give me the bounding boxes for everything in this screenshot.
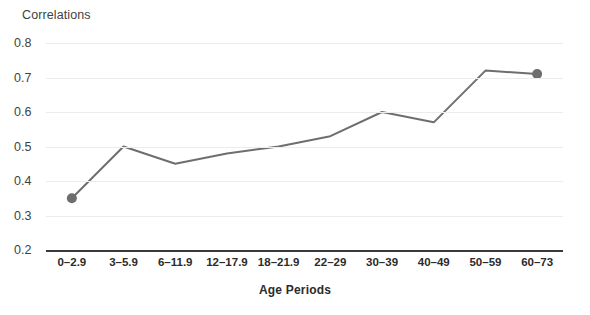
gridline bbox=[46, 216, 563, 217]
plot-area bbox=[46, 43, 563, 250]
y-tick-label: 0.3 bbox=[14, 209, 40, 223]
gridline bbox=[46, 78, 563, 79]
gridline bbox=[46, 147, 563, 148]
data-line bbox=[72, 71, 537, 199]
x-tick-label: 50–59 bbox=[469, 256, 501, 268]
x-tick-label: 0–2.9 bbox=[57, 256, 86, 268]
gridline bbox=[46, 112, 563, 113]
y-tick-label: 0.7 bbox=[14, 71, 40, 85]
x-axis-line bbox=[46, 250, 563, 252]
x-tick-label: 6–11.9 bbox=[158, 256, 193, 268]
y-tick-label: 0.8 bbox=[14, 36, 40, 50]
gridline bbox=[46, 181, 563, 182]
y-tick-label: 0.5 bbox=[14, 140, 40, 154]
x-tick-label: 3–5.9 bbox=[109, 256, 138, 268]
x-tick-label: 18–21.9 bbox=[258, 256, 300, 268]
x-tick-label: 22–29 bbox=[314, 256, 346, 268]
data-point-marker bbox=[67, 193, 77, 203]
correlations-line-chart: Correlations Age Periods 0.80.70.60.50.4… bbox=[0, 0, 590, 315]
x-tick-label: 12–17.9 bbox=[206, 256, 248, 268]
y-tick-label: 0.4 bbox=[14, 174, 40, 188]
y-tick-label: 0.6 bbox=[14, 105, 40, 119]
y-tick-label: 0.2 bbox=[14, 243, 40, 257]
x-tick-label: 40–49 bbox=[418, 256, 450, 268]
gridline bbox=[46, 43, 563, 44]
x-tick-label: 60–73 bbox=[521, 256, 553, 268]
x-axis-title: Age Periods bbox=[0, 283, 590, 297]
y-axis-title: Correlations bbox=[22, 8, 91, 22]
x-tick-label: 30–39 bbox=[366, 256, 398, 268]
